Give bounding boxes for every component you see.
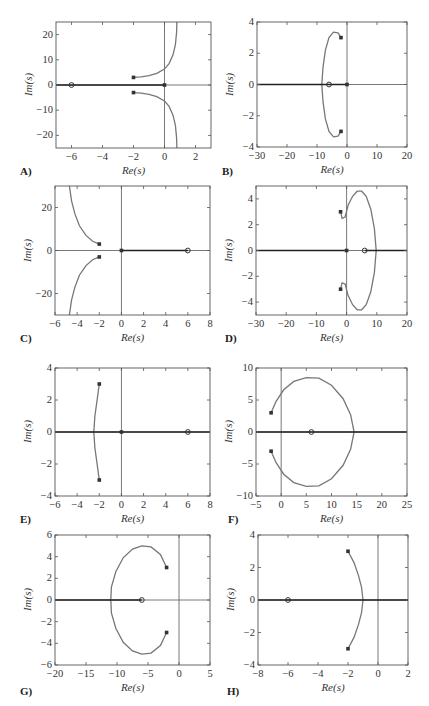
x-axis-label: Re(s) <box>321 682 344 693</box>
panel-label-e: E) <box>20 514 31 525</box>
x-tick-label: −8 <box>252 669 263 680</box>
x-tick-label: −6 <box>282 669 293 680</box>
panel-label-b: B) <box>222 166 233 177</box>
y-tick-label: 0 <box>250 595 255 606</box>
plot-area <box>0 0 429 706</box>
panel-label-g: G) <box>20 686 32 697</box>
y-tick-label: 4 <box>250 530 255 541</box>
locus-branch <box>348 600 363 649</box>
x-tick-label: −2 <box>342 669 353 680</box>
locus-branch <box>348 551 363 600</box>
x-tick-label: −4 <box>312 669 323 680</box>
panel-label-h: H) <box>227 686 239 697</box>
y-tick-label: −2 <box>244 628 255 639</box>
y-tick-label: −4 <box>244 660 255 671</box>
panel-label-d: D) <box>225 333 237 344</box>
panel-label-a: A) <box>20 166 32 177</box>
pole-marker <box>346 647 350 651</box>
y-axis-label: Im(s) <box>225 588 236 611</box>
panel-label-f: F) <box>228 514 238 525</box>
y-tick-label: 2 <box>250 563 255 574</box>
x-tick-label: 2 <box>405 669 410 680</box>
x-tick-label: 0 <box>375 669 380 680</box>
pole-marker <box>346 549 350 553</box>
panel-label-c: C) <box>20 333 32 344</box>
